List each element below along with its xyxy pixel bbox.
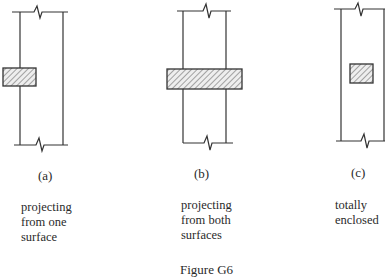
panel-a-duct-section bbox=[3, 68, 36, 86]
panel-c-description: totally enclosed bbox=[335, 198, 379, 228]
panel-a-description: projecting from one surface bbox=[21, 200, 72, 245]
figure-caption: Figure G6 bbox=[180, 262, 233, 278]
panel-c-duct-section bbox=[350, 64, 373, 83]
panel-b-label: (b) bbox=[194, 166, 209, 182]
panel-b-description: projecting from both surfaces bbox=[181, 198, 232, 243]
panel-a-label: (a) bbox=[38, 168, 52, 184]
panel-b-duct-section bbox=[167, 69, 242, 89]
panel-c-label: (c) bbox=[351, 165, 365, 181]
